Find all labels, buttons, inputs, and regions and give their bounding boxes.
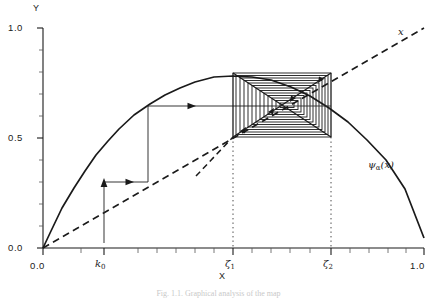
- psi-base: ψ: [368, 159, 376, 170]
- spiral-ring-9: [264, 93, 307, 117]
- spiral-entry-dash: [196, 137, 233, 176]
- psi-argument: (x): [381, 159, 394, 170]
- arrowhead-up-k0: [101, 178, 108, 187]
- spiral-marker-high: [318, 77, 324, 84]
- spiral-ring-8: [260, 91, 310, 120]
- x-tick-label-zeta1: ζ1: [225, 259, 235, 271]
- x-tick-label-zeta2: ζ2: [323, 259, 333, 271]
- arrowhead-right-1: [126, 179, 135, 186]
- y-tick-label-0.5: 0.5: [8, 133, 23, 143]
- zeta2-subscript: 2: [328, 263, 332, 271]
- x-axis-title: X: [219, 272, 225, 281]
- arrowhead-right-2: [188, 103, 197, 110]
- zeta1-subscript: 1: [230, 263, 234, 271]
- k0-subscript: 0: [101, 263, 105, 271]
- identity-diagonal-label: x: [398, 27, 404, 37]
- x-tick-label-k0: k0: [95, 259, 106, 271]
- x-axis-minor-ticks: [81, 248, 406, 253]
- x-axis-major-ticks: [43, 248, 424, 255]
- guide-lines-group: [233, 137, 331, 248]
- y-tick-label-0.0: 0.0: [8, 243, 23, 253]
- figure-caption: Fig. 1.1. Graphical analysis of the map: [0, 289, 437, 298]
- psi-alpha-curve: [43, 76, 424, 248]
- figure-container: Y 1.0 0.5 0.0 0.0 k0 ζ1 ζ2 1.0 X x ψα(x)…: [0, 0, 437, 298]
- y-axis-major-ticks: [37, 28, 43, 248]
- x-tick-label-1.0: 1.0: [410, 261, 425, 271]
- psi-alpha-curve-label: ψα(x): [368, 160, 394, 172]
- plot-canvas: [0, 0, 437, 298]
- identity-diagonal-line: [43, 28, 424, 248]
- x-tick-label-0.0: 0.0: [30, 261, 45, 271]
- y-tick-label-1.0: 1.0: [8, 23, 23, 33]
- y-axis-title: Y: [33, 4, 39, 13]
